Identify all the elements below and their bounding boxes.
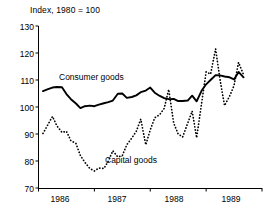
axes <box>36 26 263 192</box>
plot-area <box>0 0 271 219</box>
series-line-consumer-goods <box>43 72 244 108</box>
series-line-capital-goods <box>43 49 244 171</box>
chart-container: Index, 1980 = 100 130 120 110 100 90 80 … <box>0 0 271 219</box>
